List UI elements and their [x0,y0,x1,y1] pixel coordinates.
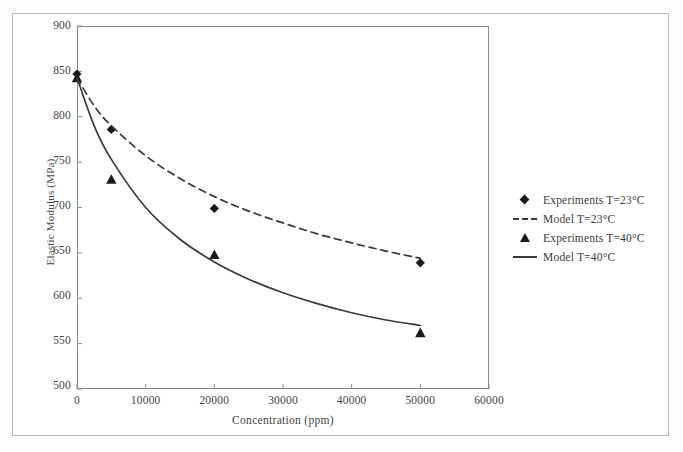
legend-label: Model T=40°C [543,251,615,263]
x-tick-label: 40000 [337,395,367,407]
x-tick-label: 20000 [199,395,229,407]
legend-item-experiments-23c: Experiments T=23°C [512,190,662,209]
data-point-marker [106,174,116,184]
y-axis-title-holder: Elastic Modulus (MPa) [28,26,42,389]
data-point-marker [210,204,219,213]
legend-label: Model T=23°C [543,213,615,225]
chart-legend: Experiments T=23°C Model T=23°C Experime… [512,190,662,266]
legend-item-experiments-40c: Experiments T=40°C [512,228,662,247]
series-line [77,78,420,326]
dashed-line-icon [512,212,538,226]
legend-item-model-23c: Model T=23°C [512,209,662,228]
x-tick-label: 10000 [131,395,161,407]
legend-label: Experiments T=23°C [543,194,645,206]
chart-figure: 900 850 800 750 700 650 600 550 500 Elas… [0,0,683,452]
diamond-marker-icon [512,193,538,207]
x-tick-label: 60000 [474,395,504,407]
y-axis-title: Elastic Modulus (MPa) [44,127,56,297]
plot-canvas [77,26,489,389]
triangle-marker-icon [512,231,538,245]
legend-item-model-40c: Model T=40°C [512,247,662,266]
tick-marks [77,26,489,389]
series-line [77,78,420,259]
x-tick-label: 30000 [268,395,298,407]
series-layer [72,69,426,337]
data-point-marker [209,249,219,259]
x-axis-ticks: 0 10000 20000 30000 40000 50000 60000 [77,395,489,411]
data-point-marker [416,258,425,267]
data-point-marker [415,328,425,338]
x-tick-label: 50000 [405,395,435,407]
plot-area [77,26,489,389]
x-tick-label: 0 [74,395,80,407]
solid-line-icon [512,250,538,264]
x-axis-title: Concentration (ppm) [77,414,489,426]
legend-label: Experiments T=40°C [543,232,645,244]
